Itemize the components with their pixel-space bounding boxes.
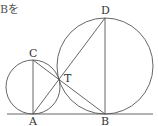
segment-ad <box>33 18 105 114</box>
label-t: T <box>64 72 72 85</box>
label-b: B <box>101 115 109 126</box>
geometry-figure: C D T A B <box>0 0 158 126</box>
label-c: C <box>29 47 37 60</box>
segment-cb <box>33 60 105 114</box>
label-a: A <box>28 115 38 126</box>
label-d: D <box>101 4 110 17</box>
